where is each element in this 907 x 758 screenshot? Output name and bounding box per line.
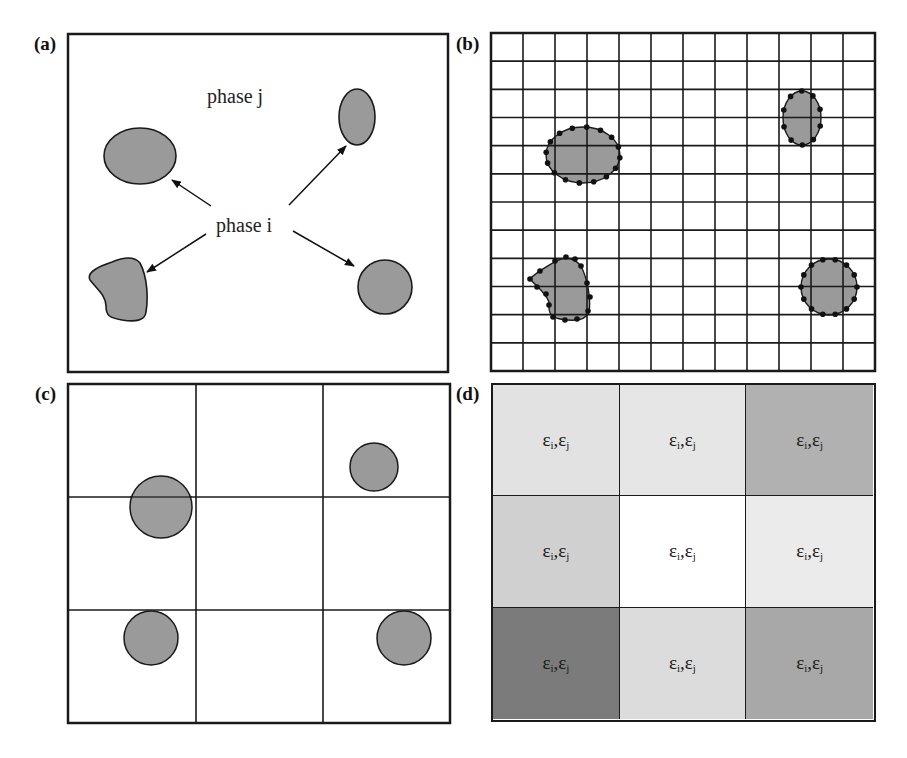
c-circle-inclusion-3 xyxy=(124,611,178,665)
strain-label: εi,εj xyxy=(796,540,823,562)
strain-label: εi,εj xyxy=(796,652,823,674)
c-circle-inclusion-4 xyxy=(377,611,431,665)
phase-fraction-cell: εi,εj xyxy=(746,385,873,496)
multiscale-figure: (a) (b) (c) (d) phase j phase i xyxy=(0,0,907,758)
strain-label: εi,εj xyxy=(796,429,823,451)
phase-fraction-cell: εi,εj xyxy=(493,496,620,607)
phase-fraction-cell: εi,εj xyxy=(493,385,620,496)
strain-label: εi,εj xyxy=(542,652,569,674)
panel-d: εi,εjεi,εjεi,εjεi,εjεi,εjεi,εjεi,εjεi,εj… xyxy=(491,383,876,722)
c-circle-inclusion-2 xyxy=(350,443,398,491)
strain-label: εi,εj xyxy=(669,429,696,451)
phase-fraction-cell: εi,εj xyxy=(746,608,873,719)
strain-label: εi,εj xyxy=(542,540,569,562)
phase-fraction-cell: εi,εj xyxy=(493,608,620,719)
phase-fraction-cell: εi,εj xyxy=(620,608,747,719)
phase-fraction-cell: εi,εj xyxy=(620,385,747,496)
c-circle-inclusion-1 xyxy=(130,476,192,538)
phase-fraction-cell: εi,εj xyxy=(620,496,747,607)
strain-label: εi,εj xyxy=(542,429,569,451)
phase-fraction-cell: εi,εj xyxy=(746,496,873,607)
strain-label: εi,εj xyxy=(669,652,696,674)
strain-label: εi,εj xyxy=(669,540,696,562)
